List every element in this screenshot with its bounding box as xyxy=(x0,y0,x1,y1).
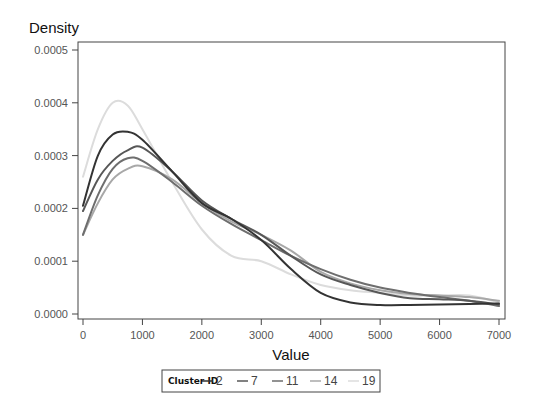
y-tick-label: 0.0005 xyxy=(34,44,68,56)
legend: Cluster ID 27111419 xyxy=(162,370,380,392)
y-tick-label: 0.0002 xyxy=(34,202,68,214)
legend-label-11: 11 xyxy=(286,374,299,388)
x-tick-label: 1000 xyxy=(130,329,154,341)
y-tick-label: 0.0000 xyxy=(34,308,68,320)
density-chart: Density 0.00000.00010.00020.00030.00040.… xyxy=(0,0,537,415)
y-axis: 0.00000.00010.00020.00030.00040.0005 xyxy=(34,44,78,320)
x-tick-label: 4000 xyxy=(308,329,332,341)
legend-label-2: 2 xyxy=(216,374,223,388)
x-tick-label: 6000 xyxy=(427,329,451,341)
y-axis-title: Density xyxy=(29,19,80,36)
series-line-19 xyxy=(83,101,499,303)
x-tick-label: 5000 xyxy=(368,329,392,341)
x-tick-label: 3000 xyxy=(249,329,273,341)
series-lines xyxy=(83,101,499,306)
series-line-14 xyxy=(83,166,499,301)
y-tick-label: 0.0001 xyxy=(34,255,68,267)
x-tick-label: 0 xyxy=(80,329,86,341)
series-line-7 xyxy=(83,146,499,304)
x-axis: 01000200030004000500060007000 xyxy=(80,319,511,341)
legend-label-19: 19 xyxy=(362,374,376,388)
x-tick-label: 2000 xyxy=(190,329,214,341)
x-tick-label: 7000 xyxy=(487,329,511,341)
series-line-11 xyxy=(83,157,499,306)
y-tick-label: 0.0003 xyxy=(34,150,68,162)
legend-label-14: 14 xyxy=(324,374,338,388)
y-tick-label: 0.0004 xyxy=(34,97,68,109)
plot-frame xyxy=(78,42,505,319)
x-axis-title: Value xyxy=(272,346,309,363)
series-line-2 xyxy=(83,131,499,305)
legend-label-7: 7 xyxy=(251,374,258,388)
